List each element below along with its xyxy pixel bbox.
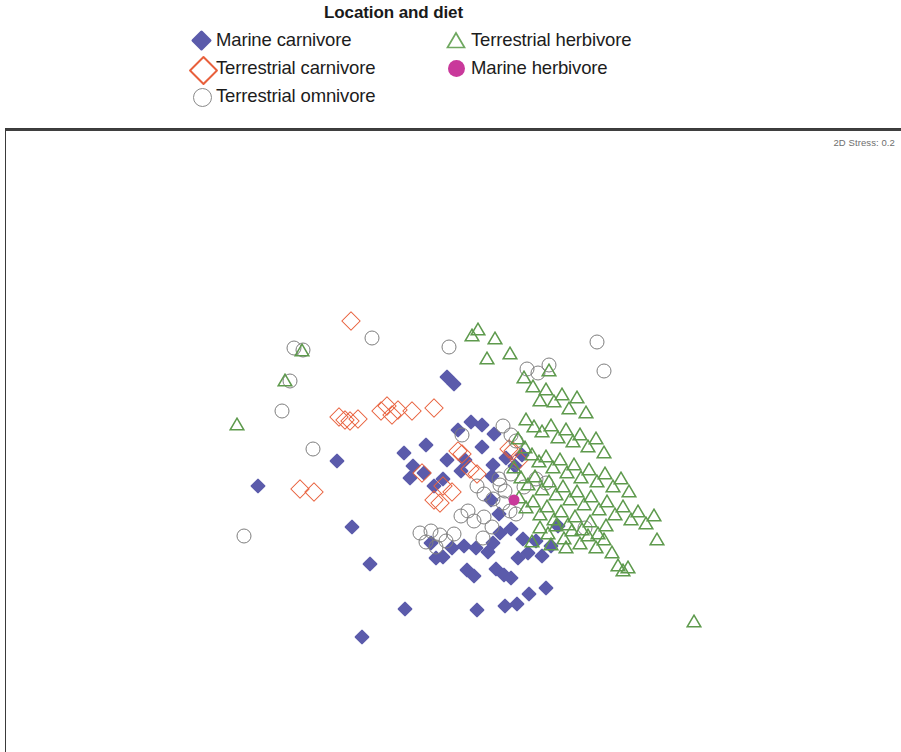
legend-item-terrestrial-omnivore[interactable]: Terrestrial omnivore xyxy=(186,82,375,110)
series-marine-herbivore xyxy=(6,129,901,752)
legend-item-marine-carnivore[interactable]: Marine carnivore xyxy=(186,26,375,54)
scatter-plot-frame: 2D Stress: 0.2 xyxy=(5,128,901,752)
legend-column-left: Marine carnivoreTerrestrial carnivoreTer… xyxy=(186,26,375,110)
diamond-filled-icon xyxy=(190,29,211,50)
legend-item-terrestrial-carnivore[interactable]: Terrestrial carnivore xyxy=(186,54,375,82)
circle-filled-icon xyxy=(448,60,465,77)
legend-symbol-terrestrial-omnivore xyxy=(186,83,216,109)
legend-label-marine-carnivore: Marine carnivore xyxy=(216,29,351,51)
legend-symbol-terrestrial-herbivore xyxy=(441,27,471,53)
data-points-layer xyxy=(6,129,901,752)
triangle-open-icon xyxy=(446,31,466,49)
legend-label-terrestrial-carnivore: Terrestrial carnivore xyxy=(216,57,375,79)
legend-symbol-marine-herbivore xyxy=(441,55,471,81)
chart-legend: Location and diet Marine carnivoreTerres… xyxy=(0,0,899,122)
legend-label-marine-herbivore: Marine herbivore xyxy=(471,57,607,79)
legend-label-terrestrial-herbivore: Terrestrial herbivore xyxy=(471,29,631,51)
diamond-open-icon xyxy=(188,55,218,85)
legend-symbol-terrestrial-carnivore xyxy=(186,55,216,81)
legend-symbol-marine-carnivore xyxy=(186,27,216,53)
legend-column-right: Terrestrial herbivoreMarine herbivore xyxy=(441,26,631,82)
legend-title: Location and diet xyxy=(0,3,843,23)
data-point xyxy=(509,495,520,506)
legend-label-terrestrial-omnivore: Terrestrial omnivore xyxy=(216,85,375,107)
circle-open-icon xyxy=(193,88,212,107)
legend-item-terrestrial-herbivore[interactable]: Terrestrial herbivore xyxy=(441,26,631,54)
legend-item-marine-herbivore[interactable]: Marine herbivore xyxy=(441,54,631,82)
